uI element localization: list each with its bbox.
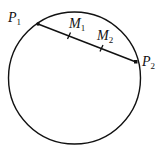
circle xyxy=(9,12,141,144)
label-p2: P2 xyxy=(141,54,155,71)
diagram-canvas: P1 P2 M1 M2 xyxy=(0,0,162,149)
point-p1 xyxy=(36,22,40,26)
label-m2: M2 xyxy=(96,28,113,45)
label-p1: P1 xyxy=(7,10,21,27)
point-p2 xyxy=(134,60,138,64)
label-m1: M1 xyxy=(68,16,85,33)
chord-p1-p2 xyxy=(38,24,136,62)
